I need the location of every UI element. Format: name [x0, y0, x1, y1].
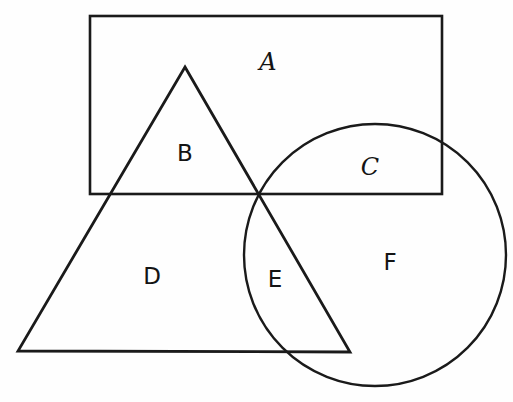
- region-label-c: C: [361, 155, 379, 179]
- diagram-canvas: A B C D E F: [0, 0, 513, 402]
- region-label-a: A: [259, 50, 276, 74]
- region-label-e: E: [268, 268, 283, 291]
- region-label-f: F: [383, 251, 396, 274]
- shapes-svg: [0, 0, 513, 402]
- triangle-shape: [18, 67, 350, 352]
- rectangle-shape: [90, 16, 442, 194]
- region-label-b: B: [177, 142, 193, 165]
- region-label-d: D: [143, 265, 161, 288]
